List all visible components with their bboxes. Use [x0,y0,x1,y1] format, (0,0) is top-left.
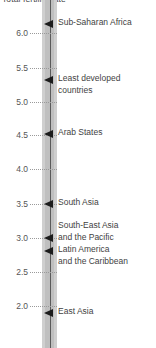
axis-tick-leader [30,33,57,34]
triangle-left-icon [44,20,53,28]
data-marker-label-line1: Latin America [58,244,110,254]
triangle-left-icon [44,200,53,208]
data-marker-label-line2: and the Caribbean [58,256,128,266]
triangle-left-icon [44,130,53,138]
axis-tick-leader [30,272,57,273]
data-marker-label-line2: and the Pacific [58,232,114,242]
data-marker-label-line1: South Asia [58,197,99,207]
data-marker-label: Latin Americaand the Caribbean [58,244,128,267]
triangle-left-icon [44,76,53,84]
triangle-left-icon [44,309,53,317]
axis-tick-label: 5.0 [8,97,28,108]
axis-tick: 5.5 [0,63,57,74]
axis-tick-leader [30,102,57,103]
triangle-left-icon [44,247,53,255]
axis-tick-label: 4.0 [8,164,28,175]
data-marker-label-line1: Least developed [58,73,120,83]
axis-tick-leader [30,68,57,69]
data-marker-label: Sub-Saharan Africa [58,17,132,29]
data-marker-label: South-East Asiaand the Pacific [58,220,118,243]
axis-tick-leader [30,169,57,170]
axis-tick-label: 6.0 [8,28,28,39]
axis-tick: 5.0 [0,97,57,108]
data-marker-label-line1: East Asia [58,306,93,316]
axis-tick-label: 5.5 [8,63,28,74]
fertility-rate-chart: Total fertility rate 6.0 5.5 5.0 4.5 4.0… [0,0,156,348]
axis-tick-label: 2.0 [8,301,28,312]
axis-tick-leader [30,306,57,307]
axis-tick: 6.0 [0,28,57,39]
axis-tick-label: 2.5 [8,267,28,278]
axis-tick-label: 3.0 [8,233,28,244]
data-marker-label: Arab States [58,127,102,139]
triangle-left-icon [44,234,53,242]
axis-tick-label: 4.5 [8,130,28,141]
data-marker-label-line2: countries [58,85,93,95]
data-marker-label: South Asia [58,197,99,209]
data-marker-label: East Asia [58,306,93,318]
data-marker-label-line1: South-East Asia [58,220,118,230]
data-marker-label-line1: Sub-Saharan Africa [58,17,132,27]
axis-tick-label: 3.5 [8,199,28,210]
data-marker-label: Least developedcountries [58,73,120,96]
axis-tick: 2.5 [0,267,57,278]
axis-tick: 4.0 [0,164,57,175]
data-marker-label-line1: Arab States [58,127,102,137]
